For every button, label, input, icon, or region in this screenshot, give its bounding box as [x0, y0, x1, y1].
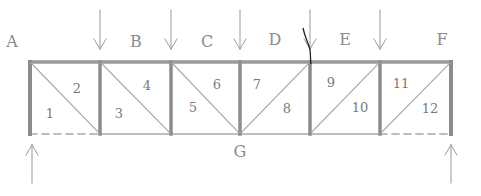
load-arrow-down — [234, 10, 246, 49]
truss-drawing — [0, 0, 481, 196]
load-arrow-down — [165, 10, 177, 49]
space-label-a: A — [6, 34, 18, 50]
reaction-arrow-up — [26, 145, 38, 183]
truss-diagram: A B C D E F G 1 2 3 4 5 6 7 8 9 10 11 12 — [0, 0, 481, 196]
panel-label: 4 — [143, 79, 151, 92]
arrow-head — [445, 145, 451, 155]
panel-label: 11 — [393, 77, 410, 90]
panel-label: 1 — [46, 107, 54, 120]
arrow-head — [451, 145, 457, 155]
panel-label: 9 — [327, 76, 335, 89]
space-label-d: D — [269, 32, 282, 48]
diagonal-member — [381, 63, 450, 133]
arrow-head — [171, 39, 177, 49]
arrow-head — [234, 39, 240, 49]
diagonal-member — [31, 63, 99, 133]
load-arrow-down — [374, 10, 386, 49]
panel-label: 10 — [352, 101, 369, 114]
panel-label: 3 — [115, 107, 123, 120]
arrow-head — [380, 39, 386, 49]
panel-label: 12 — [422, 102, 439, 115]
space-label-c: C — [201, 34, 213, 50]
panel-label: 8 — [283, 102, 291, 115]
diagonal-member — [101, 63, 170, 133]
load-arrow-down — [304, 10, 316, 49]
diagonal-member — [172, 63, 239, 133]
panel-label: 7 — [253, 78, 261, 91]
arrow-head — [374, 39, 380, 49]
diagonal-member — [241, 63, 309, 133]
panel-label: 6 — [213, 78, 221, 91]
panel-label: 2 — [73, 82, 81, 95]
arrow-head — [94, 39, 100, 49]
load-arrow-down — [94, 10, 106, 49]
arrow-head — [310, 39, 316, 49]
vertical-posts — [30, 62, 451, 134]
diagonal-member — [311, 63, 379, 133]
arrow-head — [100, 39, 106, 49]
arrow-head — [32, 145, 38, 155]
arrow-head — [26, 145, 32, 155]
space-label-e: E — [339, 32, 351, 48]
arrow-head — [165, 39, 171, 49]
panel-label: 5 — [189, 101, 197, 114]
reaction-arrow-up — [445, 145, 457, 183]
space-label-b: B — [130, 34, 142, 50]
space-label-f: F — [436, 32, 447, 48]
space-label-g: G — [234, 144, 247, 160]
arrow-head — [240, 39, 246, 49]
